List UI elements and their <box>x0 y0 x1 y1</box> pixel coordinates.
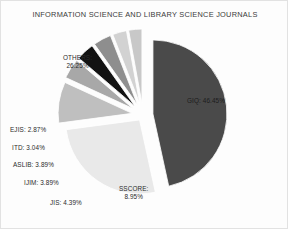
pie-label-giq: GIQ: 46.45% <box>187 97 225 105</box>
pie-label-others-name: OTHERS: <box>63 54 92 62</box>
chart-container: INFORMATION SCIENCE AND LIBRARY SCIENCE … <box>0 0 288 229</box>
pie-label-aslib: ASLIB: 3.89% <box>13 161 54 169</box>
pie-label-sscore-name: SSCORE: <box>119 185 148 193</box>
pie-label-sscore-value: 8.95% <box>119 193 148 201</box>
pie-label-jis: JIS: 4.39% <box>50 199 82 207</box>
pie-slice-giq <box>153 40 227 186</box>
pie-slice-others <box>66 120 155 194</box>
pie-label-sscore: SSCORE: 8.95% <box>119 185 148 200</box>
pie-label-others: OTHERS: 26.25% <box>63 54 92 69</box>
chart-title: INFORMATION SCIENCE AND LIBRARY SCIENCE … <box>1 10 288 19</box>
pie-label-others-value: 26.25% <box>63 62 92 70</box>
pie-label-itd: ITD: 3.04% <box>12 144 45 152</box>
pie-label-ijim: IJIM: 3.89% <box>24 179 59 187</box>
pie-label-ejis: EJIS: 2.87% <box>10 126 46 134</box>
